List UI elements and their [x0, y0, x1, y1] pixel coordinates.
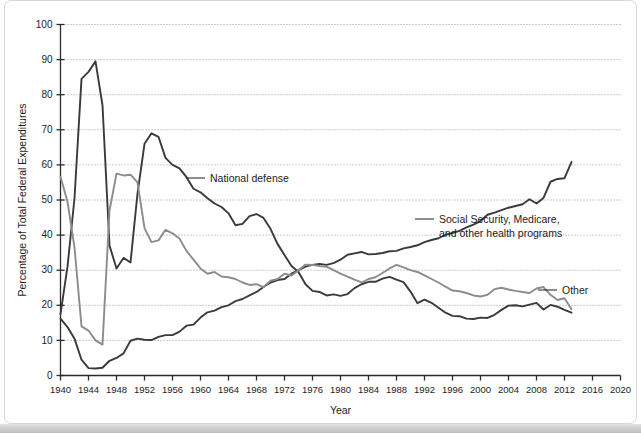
annotation-line: National defense [210, 172, 289, 184]
x-axis-title: Year [330, 404, 352, 416]
annotation-line: Social Security, Medicare, [439, 213, 560, 225]
gridlines-group [65, 25, 621, 341]
x-tick-label: 1996 [442, 384, 463, 395]
x-tick-label: 2004 [498, 384, 519, 395]
y-tick-label: 60 [41, 159, 53, 170]
page-root: 0102030405060708090100 19401944194819521… [0, 0, 641, 433]
x-tick-label: 1988 [386, 384, 407, 395]
x-tick-label: 1976 [302, 384, 323, 395]
y-axis-title: Percentage of Total Federal Expenditures [16, 103, 28, 296]
x-tick-label: 2008 [526, 384, 547, 395]
y-tick-label: 100 [36, 19, 53, 30]
y-tick-label: 50 [41, 194, 53, 205]
x-tick-label: 2016 [582, 384, 603, 395]
annotation-label-0: National defense [210, 172, 289, 184]
x-tick-label: 2012 [554, 384, 575, 395]
x-tick-label: 1980 [330, 384, 351, 395]
y-tick-label: 80 [41, 89, 53, 100]
annotation-line: Other [562, 284, 589, 296]
annotation-line: and other health programs [439, 227, 562, 239]
x-tick-label: 1952 [134, 384, 155, 395]
x-tick-label: 1964 [218, 384, 239, 395]
y-tick-label: 0 [47, 370, 53, 381]
x-tick-label: 2020 [610, 384, 631, 395]
x-tick-label: 1956 [162, 384, 183, 395]
x-tick-label: 1968 [246, 384, 267, 395]
y-tick-label: 40 [41, 229, 53, 240]
y-tick-label: 70 [41, 124, 53, 135]
line-chart: 0102030405060708090100 19401944194819521… [0, 0, 641, 433]
y-tick-label: 10 [41, 335, 53, 346]
x-tick-label: 1960 [190, 384, 211, 395]
chart-canvas: 0102030405060708090100 19401944194819521… [0, 0, 641, 433]
y-tick-label: 30 [41, 264, 53, 275]
x-tick-label: 2000 [470, 384, 491, 395]
y-tick-label: 90 [41, 54, 53, 65]
x-tick-group: 1940194419481952195619601964196819721976… [50, 376, 631, 395]
x-tick-label: 1984 [358, 384, 379, 395]
x-tick-label: 1972 [274, 384, 295, 395]
annotation-label-1: Social Security, Medicare,and other heal… [439, 213, 562, 239]
x-tick-label: 1948 [106, 384, 127, 395]
x-tick-label: 1992 [414, 384, 435, 395]
series-line-0 [61, 61, 572, 319]
x-tick-label: 1940 [50, 384, 71, 395]
annotation-label-2: Other [562, 284, 589, 296]
y-tick-label: 20 [41, 299, 53, 310]
x-tick-label: 1944 [78, 384, 99, 395]
